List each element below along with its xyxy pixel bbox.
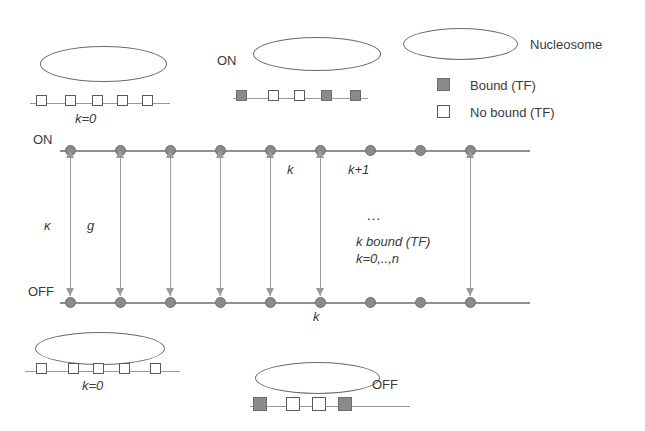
off-state-node xyxy=(415,297,426,308)
center-annotation-line2: k=0,..,n xyxy=(356,252,399,265)
transition-arrow-up-head xyxy=(316,150,324,158)
transition-arrow-up-head xyxy=(266,150,274,158)
transition-arrow-down-head xyxy=(166,288,174,296)
center-annotation-line1: k bound (TF) xyxy=(356,235,430,248)
transition-arrow-down-head xyxy=(466,288,474,296)
off-state-node xyxy=(115,297,126,308)
tf-square-open xyxy=(92,95,103,106)
top-middle-on-label: ON xyxy=(217,54,237,67)
k-index-label-bottom: k xyxy=(313,310,320,323)
dna-line-bottom-right xyxy=(250,406,410,407)
off-state-node xyxy=(215,297,226,308)
tf-square-open xyxy=(268,90,279,101)
transition-arrow-shaft xyxy=(470,156,471,296)
tf-square-open xyxy=(119,363,130,374)
tf-square-bound xyxy=(236,90,247,101)
tf-square-open xyxy=(93,363,104,374)
transition-arrow-down-head xyxy=(216,288,224,296)
transition-arrow-up-head xyxy=(66,150,74,158)
tf-square-open xyxy=(36,95,47,106)
legend-nucleosome-icon xyxy=(403,28,518,60)
figure-canvas: k=0 ON Nucleosome Bound (TF) No bound (T… xyxy=(0,0,645,431)
tf-square-open xyxy=(65,95,76,106)
legend-nucleosome-label: Nucleosome xyxy=(530,38,602,51)
transition-arrow-shaft xyxy=(220,156,221,296)
transition-arrow-shaft xyxy=(170,156,171,296)
tf-square-open xyxy=(294,90,305,101)
on-state-node xyxy=(415,145,426,156)
transition-arrow-up-head xyxy=(216,150,224,158)
bottom-left-k-label: k=0 xyxy=(82,379,103,392)
transition-arrow-down-head xyxy=(116,288,124,296)
legend-no-bound-icon xyxy=(437,105,450,118)
off-state-node xyxy=(315,297,326,308)
tf-square-open xyxy=(36,363,47,374)
on-state-rail xyxy=(60,150,530,152)
nucleosome-top-middle xyxy=(253,37,381,71)
transition-arrow-up-head xyxy=(466,150,474,158)
nucleosome-bottom-left xyxy=(35,332,165,365)
tf-square-open xyxy=(286,397,300,411)
tf-square-open xyxy=(142,95,153,106)
off-state-rail xyxy=(60,302,530,304)
legend-bound-label: Bound (TF) xyxy=(470,79,536,92)
top-left-k-label: k=0 xyxy=(75,112,96,125)
transition-arrow-down-head xyxy=(66,288,74,296)
k-plus-one-index-label: k+1 xyxy=(348,163,369,176)
off-state-node xyxy=(65,297,76,308)
nucleosome-top-left xyxy=(40,46,167,82)
transition-arrow-down-head xyxy=(266,288,274,296)
off-state-node xyxy=(465,297,476,308)
tf-square-open xyxy=(150,363,161,374)
transition-arrow-shaft xyxy=(270,156,271,296)
lattice-on-label: ON xyxy=(33,133,53,146)
transition-arrow-shaft xyxy=(320,156,321,296)
center-annotation-text: k bound (TF) xyxy=(356,234,430,249)
nucleosome-bottom-right xyxy=(255,362,380,394)
k-index-label-top: k xyxy=(287,163,294,176)
transition-arrow-shaft xyxy=(70,156,71,296)
tf-square-open xyxy=(68,363,79,374)
tf-square-bound xyxy=(350,90,361,101)
off-state-node xyxy=(365,297,376,308)
tf-square-bound xyxy=(321,90,332,101)
on-state-node xyxy=(365,145,376,156)
transition-arrow-down-head xyxy=(316,288,324,296)
g-rate-label: g xyxy=(87,219,94,232)
ellipsis-marker: … xyxy=(366,207,383,222)
off-state-node xyxy=(265,297,276,308)
legend-bound-icon xyxy=(437,78,450,91)
off-state-node xyxy=(165,297,176,308)
bottom-right-off-label: OFF xyxy=(372,378,398,391)
lattice-off-label: OFF xyxy=(28,285,54,298)
tf-square-open xyxy=(117,95,128,106)
kappa-rate-label: κ xyxy=(44,219,51,232)
transition-arrow-up-head xyxy=(116,150,124,158)
transition-arrow-shaft xyxy=(120,156,121,296)
tf-square-open xyxy=(312,397,326,411)
legend-no-bound-label: No bound (TF) xyxy=(470,106,555,119)
tf-square-bound xyxy=(338,397,352,411)
tf-square-bound xyxy=(253,397,267,411)
transition-arrow-up-head xyxy=(166,150,174,158)
